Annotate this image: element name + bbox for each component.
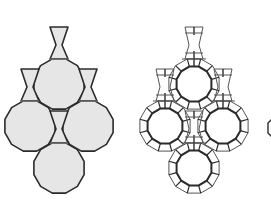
vase-neck-0 bbox=[50, 27, 68, 59]
spoke bbox=[169, 173, 177, 175]
ring-inner-2 bbox=[206, 109, 241, 144]
dodecagon-2 bbox=[63, 101, 113, 151]
spoke bbox=[176, 97, 182, 103]
spoke bbox=[182, 119, 190, 121]
spoke bbox=[228, 143, 230, 151]
spoke bbox=[147, 108, 153, 114]
left-vase-tiling bbox=[5, 27, 113, 193]
spoke bbox=[199, 101, 201, 109]
spoke bbox=[199, 59, 201, 67]
spoke bbox=[169, 77, 177, 79]
spoke bbox=[207, 97, 213, 103]
ring-inner-3 bbox=[177, 151, 212, 186]
spoke bbox=[158, 143, 160, 151]
ring-inner-1 bbox=[148, 109, 183, 144]
spoke bbox=[187, 143, 189, 151]
partial-edge-shape bbox=[268, 119, 271, 137]
spoke bbox=[199, 185, 201, 193]
spoke bbox=[187, 59, 189, 67]
spoke bbox=[187, 101, 189, 109]
edge-fragment bbox=[268, 119, 271, 137]
spoke bbox=[140, 131, 148, 133]
spoke bbox=[240, 131, 248, 133]
spoke bbox=[170, 101, 172, 109]
spoke bbox=[187, 185, 189, 193]
spoke bbox=[178, 108, 184, 114]
spoke bbox=[228, 101, 230, 109]
spoke bbox=[178, 139, 184, 145]
spoke bbox=[211, 173, 219, 175]
spoke bbox=[207, 181, 213, 187]
spoke bbox=[176, 150, 182, 156]
spoke bbox=[211, 161, 219, 163]
spoke bbox=[170, 143, 172, 151]
spoke bbox=[216, 143, 218, 151]
ring-inner-0 bbox=[177, 67, 212, 102]
spoke bbox=[205, 139, 211, 145]
spoke bbox=[169, 161, 177, 163]
spoke bbox=[158, 101, 160, 109]
spoke bbox=[205, 108, 211, 114]
spoke bbox=[176, 66, 182, 72]
spoke bbox=[236, 108, 242, 114]
spoke bbox=[211, 77, 219, 79]
spoke bbox=[176, 181, 182, 187]
spoke bbox=[216, 101, 218, 109]
spoke bbox=[207, 66, 213, 72]
spoke bbox=[240, 119, 248, 121]
spoke bbox=[236, 139, 242, 145]
spoke bbox=[207, 150, 213, 156]
spoke bbox=[199, 143, 201, 151]
spoke bbox=[147, 139, 153, 145]
spoke bbox=[198, 119, 206, 121]
right-framework-tiling bbox=[140, 27, 248, 193]
dodecagon-1 bbox=[5, 101, 55, 151]
tiling-diagram bbox=[0, 0, 271, 201]
dodecagon-0 bbox=[34, 59, 84, 109]
dodecagon-3 bbox=[34, 143, 84, 193]
spoke bbox=[140, 119, 148, 121]
